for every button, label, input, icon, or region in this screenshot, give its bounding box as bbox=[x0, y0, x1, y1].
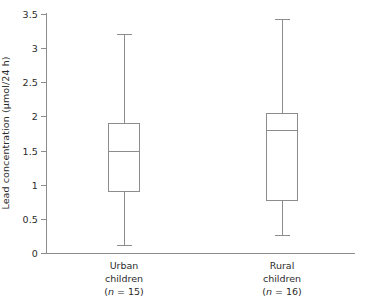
y-tick-label: 1 bbox=[32, 179, 38, 190]
whisker-cap-lower bbox=[275, 235, 290, 236]
y-axis-title: Lead concentration (μmol/24 h) bbox=[0, 56, 11, 209]
y-tick-label: 0.5 bbox=[23, 213, 38, 224]
y-tick-mark bbox=[41, 253, 46, 254]
category-label-line1: Rural bbox=[212, 259, 352, 272]
y-tick-label: 2 bbox=[32, 111, 38, 122]
median-line bbox=[266, 130, 298, 131]
boxplot-figure: Lead concentration (μmol/24 h) 3.532.521… bbox=[0, 0, 365, 305]
sample-size-label: (n = 16) bbox=[212, 285, 352, 298]
whisker-upper bbox=[124, 34, 125, 122]
y-tick-label: 3 bbox=[32, 43, 38, 54]
box-iqr bbox=[266, 113, 298, 201]
sample-size-label: (n = 15) bbox=[54, 285, 194, 298]
whisker-cap-lower bbox=[117, 245, 132, 246]
y-tick-label: 0 bbox=[32, 248, 38, 259]
category-label-rural: Ruralchildren(n = 16) bbox=[212, 259, 352, 298]
y-tick-label: 1.5 bbox=[23, 145, 38, 156]
y-axis-line bbox=[46, 13, 47, 254]
y-tick-mark bbox=[41, 14, 46, 15]
whisker-upper bbox=[282, 19, 283, 113]
y-tick-mark bbox=[41, 82, 46, 83]
y-tick-mark bbox=[41, 219, 46, 220]
category-label-line1: Urban bbox=[54, 259, 194, 272]
y-tick-mark bbox=[41, 48, 46, 49]
median-line bbox=[108, 151, 140, 152]
category-label-line2: children bbox=[212, 272, 352, 285]
x-axis-line bbox=[46, 253, 355, 254]
category-label-line2: children bbox=[54, 272, 194, 285]
y-tick-label: 3.5 bbox=[23, 9, 38, 20]
y-tick-label: 2.5 bbox=[23, 77, 38, 88]
whisker-cap-upper bbox=[275, 19, 290, 20]
y-tick-mark bbox=[41, 185, 46, 186]
y-tick-mark bbox=[41, 151, 46, 152]
whisker-cap-upper bbox=[117, 34, 132, 35]
box-iqr bbox=[108, 123, 140, 193]
whisker-lower bbox=[124, 192, 125, 245]
y-tick-mark bbox=[41, 116, 46, 117]
category-label-urban: Urbanchildren(n = 15) bbox=[54, 259, 194, 298]
whisker-lower bbox=[282, 201, 283, 235]
